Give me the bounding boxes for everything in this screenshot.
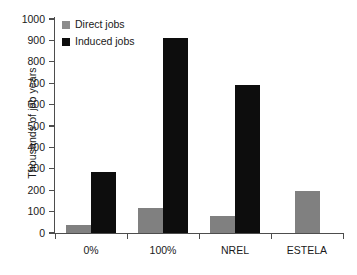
- bar-induced-jobs-nrel: [235, 85, 260, 233]
- x-axis-label-0: 0%: [55, 244, 127, 256]
- y-axis-tick-label: 300: [0, 163, 45, 173]
- y-axis-tick-label: 800: [0, 56, 45, 66]
- bar-direct-jobs-100: [138, 208, 163, 233]
- legend-swatch-icon-induced-jobs: [62, 38, 70, 46]
- bar-direct-jobs-estela: [295, 191, 320, 233]
- y-axis-tick-label: 200: [0, 185, 45, 195]
- legend-item-induced-jobs: Induced jobs: [62, 34, 172, 49]
- x-axis-tick: [343, 233, 344, 239]
- y-axis-tick-label: 700: [0, 78, 45, 88]
- y-axis-tick-label: 500: [0, 121, 45, 131]
- x-axis-label-100: 100%: [127, 244, 199, 256]
- x-axis-tick: [127, 233, 128, 239]
- bar-chart: Thousands of job years 01002003004005006…: [0, 0, 357, 275]
- y-axis-tick-label: 400: [0, 142, 45, 152]
- bar-induced-jobs-100: [163, 38, 188, 233]
- bar-direct-jobs-nrel: [210, 216, 235, 233]
- y-axis-tick-label: 100: [0, 206, 45, 216]
- x-axis-tick: [55, 233, 56, 239]
- x-axis-tick: [271, 233, 272, 239]
- legend-label-direct-jobs: Direct jobs: [75, 19, 125, 30]
- y-axis-tick-label: 900: [0, 35, 45, 45]
- x-axis-label-nrel: NREL: [199, 244, 271, 256]
- bar-induced-jobs-0: [91, 172, 116, 233]
- bar-direct-jobs-0: [66, 225, 91, 233]
- y-axis-tick-label: 1000: [0, 14, 45, 24]
- plot-area: [55, 19, 343, 233]
- chart-legend: Direct jobs Induced jobs: [62, 17, 172, 51]
- y-axis-tick-label: 600: [0, 99, 45, 109]
- legend-label-induced-jobs: Induced jobs: [75, 36, 135, 47]
- legend-swatch-icon-direct-jobs: [62, 21, 70, 29]
- x-axis-tick: [199, 233, 200, 239]
- legend-item-direct-jobs: Direct jobs: [62, 17, 172, 32]
- x-axis-label-estela: ESTELA: [271, 244, 343, 256]
- y-axis-tick-label: 0: [0, 228, 45, 238]
